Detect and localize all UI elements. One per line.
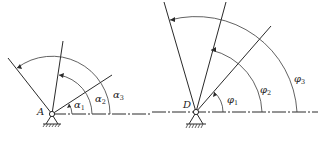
angle-label-phi-3: φ3 [294, 73, 305, 86]
pivot-label-D: D [182, 99, 191, 110]
right-ray-3 [164, 2, 196, 112]
pivot-label-A: A [36, 106, 44, 117]
angle-label-alpha-1: α1 [74, 99, 85, 112]
left-ray-2 [52, 41, 63, 114]
angle-label-alpha-2: α2 [95, 93, 106, 106]
angle-label-phi-2: φ2 [260, 84, 271, 97]
angle-diagram: A α1 α2 α3 [0, 0, 318, 144]
left-ray-3 [8, 58, 52, 114]
arrow-alpha-2 [59, 73, 64, 78]
left-figure: A α1 α2 α3 [8, 41, 152, 127]
angle-label-alpha-3: α3 [113, 89, 124, 102]
angle-label-phi-1: φ1 [227, 94, 238, 107]
right-figure: D φ1 φ2 φ3 [152, 2, 318, 128]
